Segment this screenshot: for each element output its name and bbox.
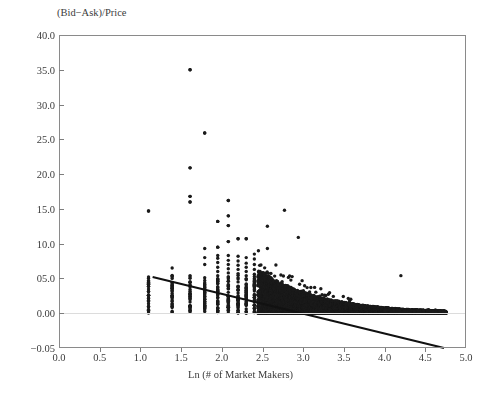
y-axis-tick-labels: 40.035.030.025.020.015.010.005.00.00−0.0… (0, 0, 55, 398)
x-tick-mark (303, 348, 304, 352)
y-tick-label: 10.0 (37, 238, 55, 249)
x-tick-label: 3.5 (337, 352, 350, 363)
y-tick-label: 0.00 (37, 308, 55, 319)
y-tick-mark (59, 244, 64, 245)
x-tick-mark (425, 348, 426, 352)
x-tick-label: 0.5 (93, 352, 106, 363)
x-tick-label: 4.5 (419, 352, 432, 363)
y-tick-label: 25.0 (37, 134, 55, 145)
y-tick-label: 15.0 (37, 203, 55, 214)
x-tick-label: 4.0 (378, 352, 391, 363)
x-tick-mark (100, 348, 101, 352)
y-tick-mark (59, 209, 64, 210)
x-tick-label: 2.0 (215, 352, 228, 363)
y-tick-label: 40.0 (37, 30, 55, 41)
x-tick-mark (344, 348, 345, 352)
y-tick-mark (59, 278, 64, 279)
x-tick-mark (140, 348, 141, 352)
plot-frame (59, 35, 466, 348)
x-tick-label: 0.0 (52, 352, 65, 363)
scatter-plot-figure: (Bid−Ask)/Price 40.035.030.025.020.015.0… (0, 0, 481, 398)
y-tick-label: 20.0 (37, 169, 55, 180)
x-axis-title: Ln (# of Market Makers) (0, 369, 481, 380)
y-tick-label: −0.05 (31, 343, 55, 354)
y-tick-mark (59, 70, 64, 71)
x-tick-mark (222, 348, 223, 352)
x-tick-label: 1.0 (134, 352, 147, 363)
y-tick-label: 05.0 (37, 273, 55, 284)
x-tick-label: 2.5 (256, 352, 269, 363)
x-tick-label: 1.5 (175, 352, 188, 363)
x-tick-mark (263, 348, 264, 352)
y-tick-mark (59, 174, 64, 175)
y-tick-label: 30.0 (37, 99, 55, 110)
y-tick-mark (59, 105, 64, 106)
y-tick-mark (59, 139, 64, 140)
y-tick-label: 35.0 (37, 64, 55, 75)
y-tick-mark (59, 313, 64, 314)
x-tick-label: 5.0 (459, 352, 472, 363)
x-tick-mark (385, 348, 386, 352)
x-tick-mark (181, 348, 182, 352)
x-tick-label: 3.0 (297, 352, 310, 363)
